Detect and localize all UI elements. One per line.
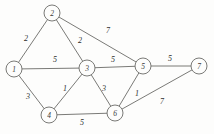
graph-node-3: 3 — [79, 60, 95, 76]
edge-weight-5-7: 5 — [168, 54, 172, 63]
graph-node-2: 2 — [44, 5, 60, 21]
graph-node-7: 7 — [191, 58, 207, 74]
node-label-1: 1 — [12, 65, 16, 74]
node-label-3: 3 — [84, 64, 89, 73]
graph-edge-1-4 — [19, 75, 44, 108]
graph-edge-3-6 — [91, 75, 111, 106]
graph-edge-2-5 — [59, 17, 136, 62]
edge-weight-4-6: 5 — [80, 118, 84, 127]
node-label-5: 5 — [141, 62, 145, 71]
graph-edge-3-4 — [54, 74, 82, 109]
graph-edge-1-2 — [18, 20, 47, 63]
node-label-4: 4 — [47, 111, 51, 120]
graph-node-6: 6 — [107, 105, 123, 121]
edge-weight-2-3: 2 — [78, 36, 82, 45]
node-label-6: 6 — [113, 109, 117, 118]
edge-weight-1-3: 5 — [53, 55, 57, 64]
edge-weight-3-6: 3 — [101, 84, 106, 93]
graph-edge-3-5 — [95, 66, 135, 67]
graph-node-5: 5 — [135, 58, 151, 74]
nodes-layer: 1234567 — [6, 5, 207, 123]
graph-node-1: 1 — [6, 61, 22, 77]
node-label-2: 2 — [50, 9, 54, 18]
graph-figure: 227555313157 1234567 — [0, 0, 214, 134]
edge-weight-6-7: 7 — [160, 97, 165, 106]
graph-edge-6-7 — [122, 70, 192, 109]
node-label-7: 7 — [197, 62, 201, 71]
graph-node-4: 4 — [41, 107, 57, 123]
graph-edge-1-3 — [22, 68, 79, 69]
graph-canvas: 227555313157 1234567 — [0, 0, 214, 134]
edge-weight-1-4: 3 — [25, 92, 30, 101]
edge-weight-1-2: 2 — [24, 34, 28, 43]
graph-edge-4-6 — [57, 113, 107, 115]
edge-weight-3-5: 5 — [111, 55, 115, 64]
edge-weight-3-4: 1 — [63, 84, 67, 93]
edge-weight-5-6: 1 — [135, 89, 139, 98]
edge-weight-2-5: 7 — [106, 26, 111, 35]
